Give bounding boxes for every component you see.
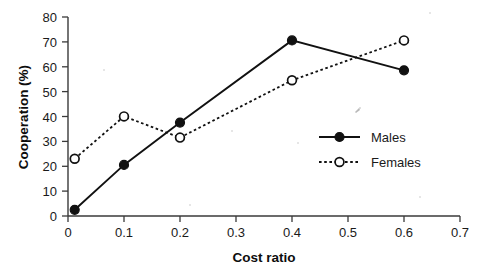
line-chart: 80 70 60 50 40 30 20 10 0 0 0.1 0.2 0.3 <box>0 0 489 273</box>
y-tick-label: 80 <box>43 10 57 25</box>
x-tick-label: 0 <box>64 225 71 240</box>
y-tick-label: 20 <box>43 159 57 174</box>
females-data-point <box>70 154 79 163</box>
females-data-point <box>120 112 129 121</box>
x-tick-label: 0.2 <box>171 225 189 240</box>
y-axis-tick-labels: 80 70 60 50 40 30 20 10 0 <box>43 10 57 224</box>
x-tick-label: 0.1 <box>115 225 133 240</box>
y-tick-label: 50 <box>43 85 57 100</box>
y-tick-label: 40 <box>43 110 57 125</box>
females-data-point <box>288 76 297 85</box>
y-tick-label: 0 <box>50 209 57 224</box>
x-tick-label: 0.5 <box>339 225 357 240</box>
legend-males-label: Males <box>371 130 406 145</box>
females-data-point <box>176 133 185 142</box>
males-data-point <box>70 205 79 214</box>
y-tick-label: 60 <box>43 60 57 75</box>
legend-males-marker <box>335 133 344 142</box>
males-data-point <box>120 160 129 169</box>
x-tick-label: 0.4 <box>283 225 301 240</box>
males-data-point <box>176 118 185 127</box>
y-axis-title: Cooperation (%) <box>16 65 31 169</box>
legend-females-marker <box>335 158 344 167</box>
x-tick-label: 0.7 <box>451 225 469 240</box>
legend-females-label: Females <box>371 155 421 170</box>
x-axis-title: Cost ratio <box>232 250 295 265</box>
females-data-point <box>400 36 409 45</box>
y-tick-label: 30 <box>43 134 57 149</box>
y-tick-label: 70 <box>43 35 57 50</box>
x-tick-label: 0.3 <box>227 225 245 240</box>
y-tick-label: 10 <box>43 184 57 199</box>
males-data-point <box>288 36 297 45</box>
x-tick-label: 0.6 <box>395 225 413 240</box>
chart-container: 80 70 60 50 40 30 20 10 0 0 0.1 0.2 0.3 <box>0 0 489 273</box>
males-data-point <box>400 66 409 75</box>
